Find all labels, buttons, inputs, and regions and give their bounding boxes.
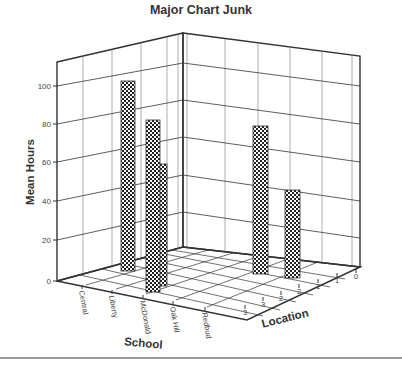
right-wall xyxy=(183,33,360,267)
y-tick-100: 100 xyxy=(38,82,52,91)
z-tick: 0 xyxy=(354,272,358,281)
x-tick-redbud: Redbud xyxy=(200,312,213,339)
bar-mcdonald xyxy=(146,120,160,292)
y-tick-40: 40 xyxy=(42,197,51,206)
y-axis-label: Mean Hours xyxy=(24,139,36,205)
divider xyxy=(0,357,402,359)
y-tick-60: 60 xyxy=(42,158,51,167)
chart-3d-bar: 100 80 60 40 20 0 Mean Hours Central Lib… xyxy=(0,0,402,376)
z-tick: 3 xyxy=(261,300,265,309)
z-tick: 2 xyxy=(297,287,301,296)
y-tick-20: 20 xyxy=(42,236,51,245)
bars xyxy=(121,81,300,292)
y-tick-80: 80 xyxy=(42,120,51,129)
x-tick-liberty: Liberty xyxy=(107,295,120,319)
z-tick: 1 xyxy=(316,282,320,291)
z-tick: 2 xyxy=(279,294,283,303)
x-axis-label: School xyxy=(124,335,163,350)
x-tick-central: Central xyxy=(77,290,90,316)
bar-redbud xyxy=(285,190,300,278)
y-tick-0: 0 xyxy=(47,277,52,286)
bar-liberty xyxy=(121,81,135,271)
x-tick-oakhill: Oak Hill xyxy=(168,306,181,334)
x-tick-mcdonald: McDonald xyxy=(138,300,153,335)
z-tick: 3 xyxy=(243,308,247,317)
floor-grid xyxy=(57,247,360,320)
z-tick: 1 xyxy=(335,276,339,285)
bar-oakhill xyxy=(253,126,268,274)
